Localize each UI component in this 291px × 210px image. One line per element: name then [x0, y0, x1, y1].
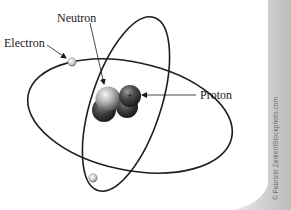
- proton-plus-icon: +: [127, 91, 132, 101]
- proton-label: Proton: [200, 89, 232, 101]
- electron-label: Electron: [4, 37, 45, 49]
- electron-leader-line: [47, 45, 66, 58]
- atom-diagram: +: [0, 0, 291, 210]
- nucleus: +: [92, 85, 141, 122]
- neutron-label: Neutron: [57, 12, 96, 24]
- photo-credit: © Fabrizio Zanier/iStockphoto.com: [272, 30, 279, 200]
- neutron-leader-line: [90, 23, 104, 84]
- side-strip: [232, 0, 291, 210]
- electron-top: [68, 58, 76, 66]
- electron-bottom: [89, 174, 97, 182]
- neutron-sphere: [96, 87, 121, 112]
